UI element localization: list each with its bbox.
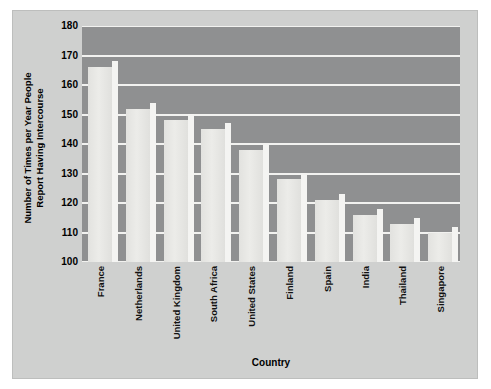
x-tick-label: Finland: [285, 266, 295, 300]
bar-side-face: [225, 123, 231, 262]
bar-front-face: [164, 120, 188, 262]
bar: [164, 114, 194, 262]
bar-front-face: [201, 129, 225, 262]
bar-top-face: [225, 123, 231, 129]
y-axis-tick-labels: 100110120130140150160170180: [48, 0, 78, 389]
bar: [390, 218, 420, 262]
bar-front-face: [315, 200, 339, 262]
bar-front-face: [390, 224, 414, 262]
y-tick-label: 160: [48, 80, 78, 90]
bar-side-face: [301, 173, 307, 262]
bar: [201, 123, 231, 262]
bar-front-face: [353, 215, 377, 262]
bar-side-face: [150, 103, 156, 262]
x-tick-label: United Kingdom: [172, 266, 182, 339]
bar-top-face: [263, 144, 269, 150]
bar-side-face: [188, 114, 194, 262]
bar-front-face: [126, 109, 150, 262]
bar-top-face: [301, 173, 307, 179]
x-tick-label: United States: [247, 266, 257, 327]
x-tick-label: Netherlands: [134, 266, 144, 321]
y-axis-title-line-1: Number of Times per Year People: [22, 72, 34, 223]
bar-front-face: [239, 150, 263, 262]
x-tick-label: France: [96, 266, 106, 297]
y-tick-label: 150: [48, 110, 78, 120]
bar: [88, 61, 118, 262]
y-tick-label: 110: [48, 228, 78, 238]
bar-front-face: [428, 233, 452, 263]
x-tick-label: Thailand: [398, 266, 408, 305]
bar: [277, 173, 307, 262]
y-tick-label: 100: [48, 257, 78, 267]
bar-side-face: [414, 218, 420, 262]
bar-side-face: [263, 144, 269, 262]
y-tick-label: 130: [48, 169, 78, 179]
bar-side-face: [112, 61, 118, 262]
bar-side-face: [377, 209, 383, 262]
plot-area: [82, 26, 460, 262]
bar: [239, 144, 269, 262]
y-tick-label: 170: [48, 51, 78, 61]
y-tick-label: 140: [48, 139, 78, 149]
chart-root: Number of Times per Year People Report H…: [0, 0, 491, 389]
bar: [428, 227, 458, 263]
bars-layer: [82, 26, 460, 262]
bar-front-face: [277, 179, 301, 262]
bar: [353, 209, 383, 262]
bar: [315, 194, 345, 262]
bar-front-face: [88, 67, 112, 262]
bar-top-face: [188, 114, 194, 120]
bar-top-face: [414, 218, 420, 224]
bar-top-face: [112, 61, 118, 67]
x-tick-label: India: [361, 266, 371, 288]
y-axis-title: Number of Times per Year People Report H…: [17, 30, 51, 266]
x-tick-label: Singapore: [436, 266, 446, 312]
y-tick-label: 180: [48, 21, 78, 31]
y-axis-title-line-2: Report Having Intercourse: [34, 88, 46, 207]
x-tick-label: Spain: [323, 266, 333, 292]
bar: [126, 103, 156, 262]
x-axis-title: Country: [82, 357, 460, 368]
bar-top-face: [452, 227, 458, 233]
bar-side-face: [339, 194, 345, 262]
bar-top-face: [339, 194, 345, 200]
x-tick-label: South Africa: [209, 266, 219, 322]
bar-top-face: [150, 103, 156, 109]
bar-top-face: [377, 209, 383, 215]
y-tick-label: 120: [48, 198, 78, 208]
x-axis-tick-labels: FranceNetherlandsUnited KingdomSouth Afr…: [82, 264, 460, 350]
